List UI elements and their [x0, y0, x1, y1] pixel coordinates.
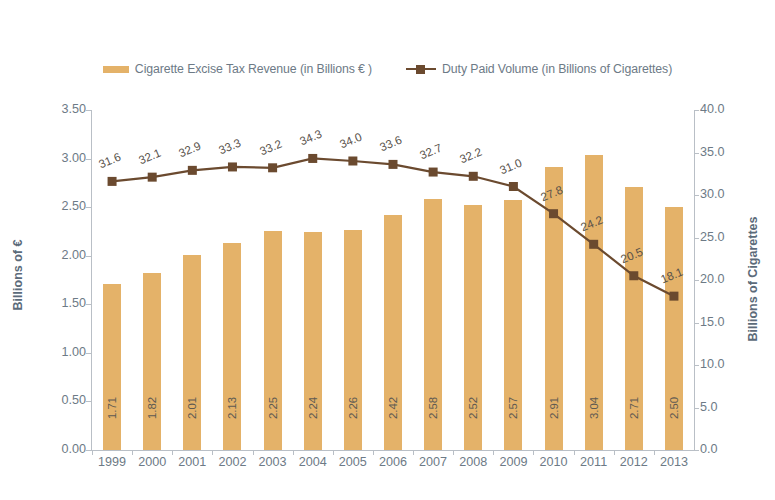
left-axis-tick-mark [86, 304, 91, 305]
left-axis-tick-mark [86, 353, 91, 354]
dual-axis-chart: Cigarette Excise Tax Revenue (in Billion… [0, 0, 775, 500]
x-axis-tick-label: 2013 [648, 455, 700, 469]
right-axis-tick-mark [694, 195, 699, 196]
right-axis-tick-mark [694, 153, 699, 154]
line-marker [108, 177, 117, 186]
line-marker [148, 173, 157, 182]
left-axis-tick-mark [86, 110, 91, 111]
right-axis-tick-mark [694, 238, 699, 239]
left-axis-tick-mark [86, 256, 91, 257]
right-axis-tick-mark [694, 408, 699, 409]
left-axis-tick-mark [86, 450, 91, 451]
line-marker [348, 157, 357, 166]
plot-area: 1.711.822.012.132.252.242.262.422.582.52… [92, 110, 694, 450]
line-marker [469, 172, 478, 181]
right-axis-tick-mark [694, 323, 699, 324]
line-marker [589, 240, 598, 249]
line-series-duty-paid-volume [92, 110, 694, 451]
line-marker [228, 162, 237, 171]
line-marker [268, 163, 277, 172]
left-axis-tick-mark [86, 207, 91, 208]
line-marker [509, 182, 518, 191]
line-marker [669, 292, 678, 301]
line-marker [389, 160, 398, 169]
right-axis-tick-mark [694, 450, 699, 451]
line-marker [429, 168, 438, 177]
right-axis-tick-mark [694, 110, 699, 111]
right-axis-tick-mark [694, 280, 699, 281]
line-marker [629, 271, 638, 280]
line-marker [549, 209, 558, 218]
left-axis-tick-mark [86, 401, 91, 402]
right-axis-tick-mark [694, 365, 699, 366]
line-marker [308, 154, 317, 163]
line-marker [188, 166, 197, 175]
